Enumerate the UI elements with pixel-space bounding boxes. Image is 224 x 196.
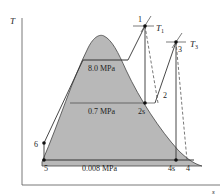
point-label-2: 2: [163, 91, 167, 100]
isotherm-t1-slope: [141, 16, 151, 32]
isotherm-label-t1: T1: [156, 23, 164, 34]
actual-expansion-1-2: [145, 26, 158, 103]
point-label-4: 4: [186, 164, 190, 173]
y-axis-label: T: [10, 16, 16, 26]
actual-expansion-3-4: [176, 42, 187, 160]
saturation-dome: [42, 35, 202, 166]
point-label-1: 1: [138, 15, 142, 24]
state-point-5: [42, 158, 46, 162]
point-label-6: 6: [34, 140, 38, 149]
pressure-label-0.7mpa: 0.7 MPa: [88, 107, 116, 116]
ts-diagram: T s 8.0 MPa 0.7 MPa 0.008 MPa T1 T3 1 2 …: [0, 0, 224, 196]
superheat-line-to-1: [128, 26, 145, 60]
point-label-3: 3: [178, 45, 182, 54]
pressure-label-8mpa: 8.0 MPa: [88, 64, 116, 73]
point-label-5: 5: [44, 164, 48, 173]
state-point-4s: [174, 158, 178, 162]
pressure-label-0.008mpa: 0.008 MPa: [82, 164, 118, 173]
isotherm-label-t3: T3: [190, 39, 198, 50]
state-point-1: [143, 24, 147, 28]
point-label-4s: 4s: [168, 164, 175, 173]
state-point-2s: [143, 101, 147, 105]
state-point-6: [42, 141, 46, 145]
state-point-3: [174, 40, 178, 44]
x-axis-label: s: [212, 188, 215, 196]
point-label-2s: 2s: [138, 107, 145, 116]
